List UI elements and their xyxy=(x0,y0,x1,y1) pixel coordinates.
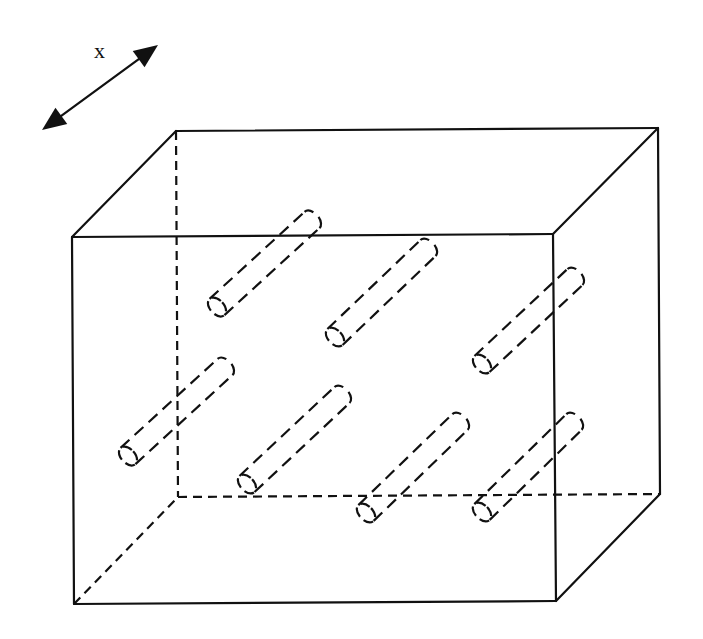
cylinder xyxy=(469,268,584,377)
cylinder-front-end xyxy=(234,471,259,497)
box-edge xyxy=(74,601,556,604)
cylinder-front-end xyxy=(353,500,378,526)
arrowhead-icon xyxy=(42,108,67,130)
box-edge xyxy=(176,128,658,131)
box-edge xyxy=(72,131,176,237)
x-axis-indicator: x xyxy=(42,38,158,130)
x-axis-label: x xyxy=(94,38,105,63)
cylinder-front-end xyxy=(469,499,494,525)
cylinder-back-end xyxy=(218,358,234,375)
box-with-fibers-diagram: x xyxy=(0,0,703,639)
box-edge xyxy=(553,234,556,601)
cylinder xyxy=(353,413,469,526)
cylinder-back-end xyxy=(452,413,469,430)
box-edge xyxy=(556,494,660,601)
cylinder-group xyxy=(115,211,584,526)
box-edge xyxy=(658,128,660,494)
cylinder-front-end xyxy=(469,351,494,377)
arrowhead-icon xyxy=(133,45,158,67)
cylinder xyxy=(322,239,437,350)
cylinder xyxy=(234,386,351,497)
cylinder-back-end xyxy=(420,239,437,256)
box-edge xyxy=(72,237,74,604)
cylinder-front-end xyxy=(115,443,140,469)
cylinder xyxy=(469,413,583,525)
cylinder-back-end xyxy=(305,211,321,229)
cylinder-back-end xyxy=(567,268,584,285)
box-hidden-edge xyxy=(176,131,178,497)
cylinder xyxy=(204,211,321,320)
cylinder-front-end xyxy=(204,294,229,320)
box-visible-edges xyxy=(72,128,660,604)
x-direction-arrow xyxy=(57,56,142,118)
box-edge xyxy=(553,128,658,234)
cylinder-back-end xyxy=(334,386,351,403)
cylinder-back-end xyxy=(566,413,583,430)
box-hidden-edges xyxy=(74,131,660,604)
cylinder-front-end xyxy=(322,324,347,350)
cylinder xyxy=(115,358,234,469)
box-hidden-edge xyxy=(74,497,178,604)
